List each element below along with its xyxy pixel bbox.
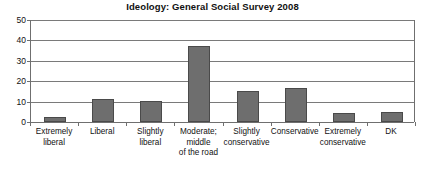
gridline — [31, 102, 414, 103]
y-tick-mark — [27, 20, 31, 21]
y-tick-label-30: 30 — [0, 57, 26, 65]
bar — [44, 117, 66, 122]
bar — [140, 101, 162, 122]
bar — [381, 112, 403, 122]
gridline — [31, 81, 414, 82]
x-tick-mark — [367, 122, 368, 126]
bar — [237, 91, 259, 122]
x-tick-mark — [174, 122, 175, 126]
y-tick-label-0: 0 — [0, 118, 26, 126]
y-tick-label-20: 20 — [0, 77, 26, 85]
bar — [285, 88, 307, 122]
chart-title: Ideology: General Social Survey 2008 — [0, 1, 425, 13]
x-tick-mark — [271, 122, 272, 126]
x-tick-mark — [78, 122, 79, 126]
bar — [92, 99, 114, 122]
y-tick-label-10: 10 — [0, 98, 26, 106]
y-tick-label-40: 40 — [0, 36, 26, 44]
bar — [188, 46, 210, 123]
y-tick-label-50: 50 — [0, 16, 26, 24]
y-tick-mark — [27, 61, 31, 62]
bar — [333, 113, 355, 122]
gridline — [31, 61, 414, 62]
plot-area — [30, 20, 415, 122]
x-tick-mark — [30, 122, 31, 126]
chart-container: Ideology: General Social Survey 2008 010… — [0, 0, 425, 176]
x-tick-mark — [126, 122, 127, 126]
gridline — [31, 20, 414, 21]
x-tick-mark — [319, 122, 320, 126]
gridline — [31, 40, 414, 41]
x-tick-label: DK — [359, 127, 423, 138]
x-tick-mark — [415, 122, 416, 126]
y-tick-mark — [27, 40, 31, 41]
y-tick-mark — [27, 81, 31, 82]
y-tick-mark — [27, 102, 31, 103]
x-tick-mark — [223, 122, 224, 126]
